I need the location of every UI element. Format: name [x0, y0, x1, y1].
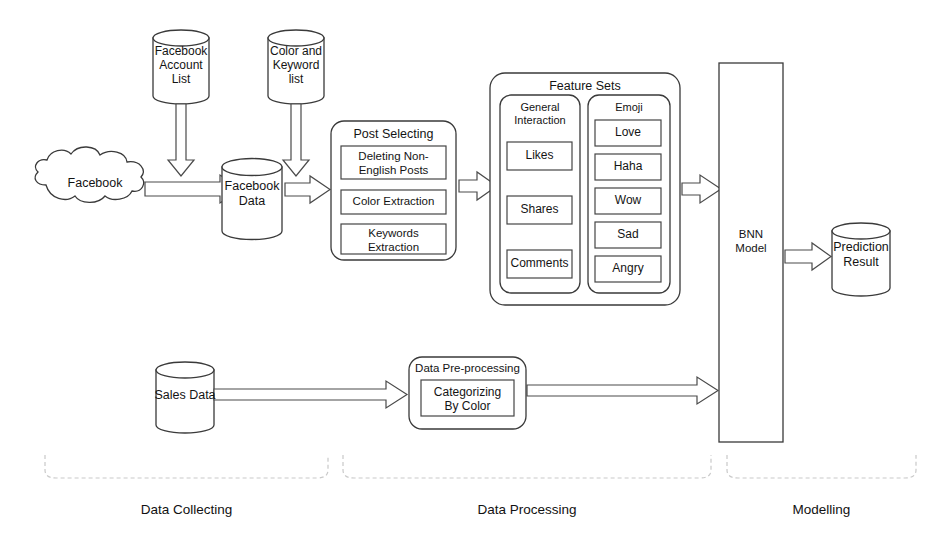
sales-data-cylinder [156, 362, 214, 433]
arrow-preprocessing-to-bnn [527, 377, 718, 404]
arrow-facebook-data-to-post-selecting [285, 176, 330, 203]
diagram-vector-layer: .sh { fill:#ffffff; stroke:#3a3a3a; stro… [0, 0, 929, 552]
facebook-cloud [35, 147, 143, 202]
phase-label-data-collecting: Data Collecting [45, 502, 328, 517]
arrow-sales-data-to-preprocessing [214, 381, 407, 408]
prediction-result-cylinder [832, 223, 890, 296]
facebook-account-list-cylinder [153, 30, 209, 104]
arrow-feature-sets-to-bnn [682, 175, 721, 203]
data-preprocessing-group [409, 357, 526, 429]
color-keyword-list-cylinder [268, 30, 324, 104]
arrow-account-list-to-facebook-data [168, 104, 194, 176]
arrow-bnn-to-prediction-result [785, 243, 831, 270]
phase-label-modelling: Modelling [727, 502, 916, 517]
post-selecting-group [331, 121, 456, 260]
diagram-canvas: .sh { fill:#ffffff; stroke:#3a3a3a; stro… [0, 0, 929, 552]
phase-label-data-processing: Data Processing [343, 502, 711, 517]
phase-bracket-modelling [727, 455, 916, 478]
facebook-data-cylinder [222, 159, 282, 240]
arrow-keyword-list-to-facebook-data [283, 104, 309, 176]
feature-sets-group [490, 73, 680, 305]
phase-bracket-data-processing [343, 455, 711, 478]
bnn-model-box [719, 63, 783, 442]
phase-bracket-data-collecting [45, 455, 328, 478]
